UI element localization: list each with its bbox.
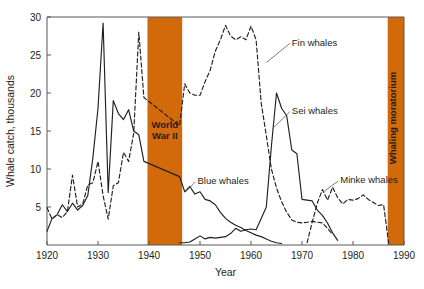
annotation-fin-whales: Fin whales bbox=[266, 37, 337, 63]
x-tick-label: 1990 bbox=[393, 250, 416, 261]
band-label-vertical: Whaling moratorium bbox=[387, 72, 398, 164]
band-label-line: War II bbox=[152, 130, 178, 141]
chart-canvas: WorldWar IIWhaling moratorium51015202530… bbox=[0, 0, 424, 289]
y-tick-label: 5 bbox=[35, 202, 41, 213]
x-tick-label: 1950 bbox=[189, 250, 212, 261]
axes-frame bbox=[47, 17, 404, 245]
x-tick-label: 1930 bbox=[87, 250, 110, 261]
x-tick-label: 1920 bbox=[36, 250, 59, 261]
x-axis-title: Year bbox=[215, 266, 237, 278]
x-tick-label: 1960 bbox=[240, 250, 263, 261]
x-tick-label: 1940 bbox=[138, 250, 161, 261]
y-tick-label: 20 bbox=[30, 88, 42, 99]
y-tick-label: 25 bbox=[30, 50, 42, 61]
series-label-text: Fin whales bbox=[292, 37, 338, 48]
series-line-fin-whales bbox=[47, 25, 333, 234]
y-axis-title: Whale catch, thousands bbox=[4, 75, 16, 187]
series-line-minke-whales bbox=[307, 187, 389, 243]
band-world-war-ii: WorldWar II bbox=[147, 17, 182, 245]
series-label-text: Sei whales bbox=[292, 105, 338, 116]
y-tick-label: 10 bbox=[30, 164, 42, 175]
series-label-text: Blue whales bbox=[197, 175, 248, 186]
whale-catch-figure: WorldWar IIWhaling moratorium51015202530… bbox=[0, 0, 424, 289]
x-tick-label: 1980 bbox=[342, 250, 365, 261]
y-tick-label: 15 bbox=[30, 126, 42, 137]
band-whaling-moratorium: Whaling moratorium bbox=[387, 17, 404, 245]
annotation-blue-whales: Blue whales bbox=[186, 175, 249, 192]
annotation-minke-whales: Minke whales bbox=[323, 174, 398, 191]
x-tick-label: 1970 bbox=[291, 250, 314, 261]
axis-ticks: 5101520253019201930194019501960197019801… bbox=[30, 12, 416, 262]
y-tick-label: 30 bbox=[30, 12, 42, 23]
series-label-text: Minke whales bbox=[340, 174, 398, 185]
band-label-line: World bbox=[151, 119, 178, 130]
